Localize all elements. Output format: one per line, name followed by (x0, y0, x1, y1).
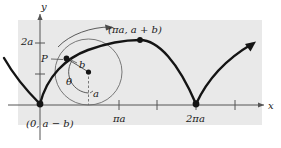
y-tick-label-2a: 2a (21, 37, 33, 47)
x-axis-label: x (268, 101, 274, 111)
point-p-dot (64, 56, 70, 62)
y-axis-label: y (41, 2, 47, 12)
point-top-dot (137, 37, 143, 43)
point-p-label: P (41, 54, 48, 64)
point-origin-dot (37, 101, 44, 108)
x-tick-label-pia: πa (113, 114, 126, 124)
cycloid-figure: y x 2a πa 2πa P b a θ (πa, a + b) (0, a … (0, 0, 281, 148)
angle-theta-label: θ (66, 77, 72, 87)
radius-a-label: a (93, 89, 99, 99)
top-point-label: (πa, a + b) (108, 25, 162, 35)
point-2pia-dot (193, 101, 200, 108)
y-axis-arrowhead (37, 14, 42, 20)
x-tick-label-2pia: 2πa (186, 114, 205, 124)
circle-center-dot (86, 69, 91, 74)
leader-line-p (51, 59, 63, 60)
radius-b-label: b (79, 60, 85, 70)
origin-point-label: (0, a − b) (26, 119, 74, 129)
